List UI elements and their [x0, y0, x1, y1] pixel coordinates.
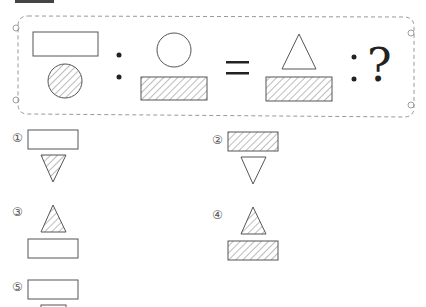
dashed-frame [18, 16, 414, 117]
equals-bottom [226, 72, 249, 75]
equals-top [226, 61, 249, 64]
option5-label[interactable]: ⑤ [12, 280, 23, 294]
ratio-dot-top [117, 53, 122, 58]
term3-triangle [282, 34, 316, 69]
option4-label[interactable]: ④ [212, 208, 223, 222]
option4-hatched-triangle [241, 207, 266, 234]
option2-label[interactable]: ② [212, 133, 223, 147]
option1-rectangle [28, 130, 78, 149]
option2-triangle-down [241, 157, 266, 184]
term2-hatched-rectangle [141, 77, 207, 100]
term2-circle [157, 33, 191, 67]
ratio-dot-top-2 [352, 55, 357, 60]
frame-hole-br [408, 102, 414, 108]
header-bar [15, 0, 54, 3]
frame-hole-tr [408, 30, 414, 36]
option3-rectangle [28, 239, 78, 258]
option4-hatched-rectangle [228, 241, 278, 260]
term1-rectangle [33, 32, 98, 56]
ratio-dot-bottom-2 [352, 77, 357, 82]
option3-label[interactable]: ③ [12, 205, 23, 219]
term1-hatched-circle [48, 64, 82, 98]
option5-rectangle [28, 280, 78, 299]
option1-hatched-triangle-down [41, 155, 66, 182]
term3-hatched-rectangle [266, 77, 332, 101]
puzzle-canvas [0, 0, 426, 307]
frame-hole-tl [13, 25, 19, 31]
option2-hatched-rectangle [228, 132, 278, 151]
unknown-mark: ? [367, 42, 392, 88]
option3-hatched-triangle [41, 205, 66, 232]
ratio-dot-bottom [117, 75, 122, 80]
option1-label[interactable]: ① [12, 131, 23, 145]
